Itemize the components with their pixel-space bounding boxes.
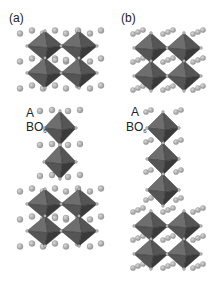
a-site-atom: [143, 139, 148, 144]
a-site-atom: [135, 263, 140, 268]
a-site-atom: [29, 186, 35, 192]
a-site-atom: [29, 56, 35, 62]
a-site-atom: [130, 237, 135, 242]
perovskite-figure: (a) (b) A BO6 A BO6: [0, 0, 214, 289]
a-site-atom: [178, 107, 183, 112]
subscript-6: 6: [143, 128, 146, 134]
subscript-6: 6: [43, 128, 46, 134]
a-site-atom: [160, 265, 165, 270]
bo6-octahedron: [43, 110, 78, 147]
panel-b-a-site-label: A: [131, 106, 139, 118]
a-site-atom: [130, 31, 135, 36]
a-site-atom: [49, 141, 55, 147]
a-site-atom: [17, 31, 23, 37]
a-site-atom: [195, 57, 200, 62]
a-site-atom: [170, 83, 175, 88]
a-site-atom: [87, 189, 93, 195]
bo-text: BO: [26, 120, 43, 134]
a-site-atom: [87, 59, 93, 65]
a-site-atom: [98, 186, 104, 192]
a-site-atom: [52, 241, 58, 247]
a-site-atom: [143, 197, 148, 202]
a-site-atom: [190, 237, 195, 242]
a-site-atom: [200, 27, 205, 32]
a-site-atom: [160, 209, 165, 214]
a-site-atom: [170, 233, 175, 238]
a-site-atom: [29, 214, 35, 220]
a-site-atom: [170, 27, 175, 32]
a-site-atom: [170, 205, 175, 210]
a-site-atom: [29, 83, 35, 89]
a-site-atom: [170, 55, 175, 60]
a-site-atom: [87, 217, 93, 223]
panel-a-label: (a): [9, 12, 24, 24]
a-site-atom: [87, 86, 93, 92]
a-site-atom: [195, 263, 200, 268]
a-site-atom: [200, 55, 205, 60]
a-site-atom: [37, 173, 43, 179]
a-site-atom: [140, 205, 145, 210]
a-site-atom: [173, 169, 178, 174]
a-site-atom: [63, 57, 69, 63]
a-site-atom: [52, 83, 58, 89]
a-site-atom: [190, 59, 195, 64]
a-site-atom: [160, 31, 165, 36]
crystal-structure-drawing: [0, 0, 214, 289]
a-site-atom: [63, 86, 69, 92]
a-site-atom: [165, 207, 170, 212]
a-site-atom: [165, 57, 170, 62]
a-site-atom: [148, 107, 153, 112]
a-site-atom: [52, 28, 58, 34]
a-site-atom: [98, 214, 104, 220]
a-site-atom: [135, 235, 140, 240]
a-site-atom: [65, 108, 71, 114]
a-site-atom: [170, 261, 175, 266]
a-site-atom: [77, 107, 83, 113]
a-site-atom: [130, 59, 135, 64]
a-site-atom: [195, 85, 200, 90]
a-site-atom: [98, 241, 104, 247]
a-site-atom: [52, 57, 58, 63]
a-site-atom: [63, 215, 69, 221]
bo6-octahedron: [43, 144, 78, 181]
a-site-atom: [65, 174, 71, 180]
a-site-atom: [130, 87, 135, 92]
a-site-atom: [98, 28, 104, 34]
a-site-atom: [195, 207, 200, 212]
a-site-atom: [200, 83, 205, 88]
a-site-atom: [63, 244, 69, 250]
a-site-atom: [165, 85, 170, 90]
a-site-atom: [17, 217, 23, 223]
a-site-atom: [135, 207, 140, 212]
a-site-atom: [52, 186, 58, 192]
a-site-atom: [148, 167, 153, 172]
a-site-atom: [200, 233, 205, 238]
a-site-atom: [77, 172, 83, 178]
a-site-atom: [178, 167, 183, 172]
a-site-atom: [17, 59, 23, 65]
a-site-atom: [17, 189, 23, 195]
a-site-atom: [37, 142, 43, 148]
a-site-atom: [135, 29, 140, 34]
a-site-atom: [200, 261, 205, 266]
a-site-atom: [173, 109, 178, 114]
a-site-atom: [143, 169, 148, 174]
a-site-atom: [49, 107, 55, 113]
a-site-atom: [130, 209, 135, 214]
a-site-atom: [160, 237, 165, 242]
a-site-atom: [37, 108, 43, 114]
a-site-atom: [178, 195, 183, 200]
a-site-atom: [165, 29, 170, 34]
a-site-atom: [52, 215, 58, 221]
a-site-atom: [178, 137, 183, 142]
a-site-atom: [190, 87, 195, 92]
a-site-atom: [173, 197, 178, 202]
a-site-atom: [165, 235, 170, 240]
a-site-atom: [190, 31, 195, 36]
panel-a-bo6-label: BO6: [26, 121, 47, 137]
bo-text: BO: [126, 120, 143, 134]
a-site-atom: [190, 209, 195, 214]
panel-b-label: (b): [121, 12, 136, 24]
a-site-atom: [98, 56, 104, 62]
a-site-atom: [29, 28, 35, 34]
